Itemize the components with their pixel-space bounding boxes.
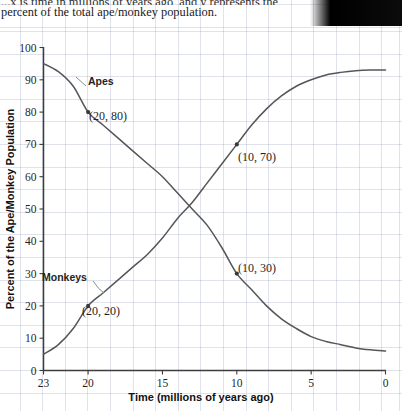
data-point-markers [86, 110, 239, 308]
annotation-20-80: (20, 80) [89, 109, 127, 123]
data-point-marker [235, 142, 239, 146]
y-tick-label: 60 [25, 171, 37, 183]
y-tick-label: 30 [25, 268, 37, 280]
y-axis-ticks: 0102030405060708090100 [19, 42, 43, 377]
y-axis-title: Percent of the Ape/Monkey Population [4, 108, 16, 309]
series-label-apes: Apes [88, 75, 114, 87]
annotation-20-20: (20, 20) [82, 304, 120, 318]
chart-plot-area: 0102030405060708090100 2320151050 Apes M… [0, 0, 402, 411]
series-label-monkeys: Monkeys [42, 271, 87, 283]
x-axis-title: Time (millions of years ago) [128, 391, 274, 403]
y-tick-label: 0 [31, 365, 37, 377]
x-tick-label: 20 [82, 377, 94, 389]
y-tick-label: 80 [25, 106, 37, 118]
annotation-10-30: (10, 30) [238, 261, 276, 275]
x-tick-label: 23 [38, 377, 50, 389]
x-axis-ticks: 2320151050 [38, 371, 389, 389]
apes-leader-line [76, 77, 86, 86]
annotation-10-70: (10, 70) [238, 150, 276, 164]
y-tick-label: 40 [25, 235, 37, 247]
x-tick-label: 10 [231, 377, 243, 389]
monkeys-leader-line [93, 281, 104, 293]
y-tick-label: 100 [19, 42, 37, 54]
x-tick-label: 15 [157, 377, 169, 389]
y-tick-label: 10 [25, 332, 37, 344]
y-tick-label: 70 [25, 138, 37, 150]
y-tick-label: 90 [25, 74, 37, 86]
x-tick-label: 5 [308, 377, 314, 389]
x-tick-label: 0 [383, 377, 389, 389]
y-tick-label: 20 [25, 300, 37, 312]
y-tick-label: 50 [25, 203, 37, 215]
